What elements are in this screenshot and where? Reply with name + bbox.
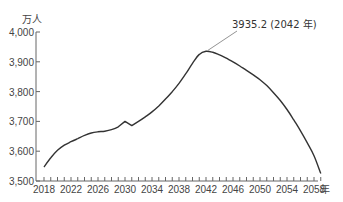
annotation-leader-line <box>208 31 237 50</box>
y-tick-label: 3,500 <box>9 176 34 187</box>
x-tick-label: 2046 <box>222 184 245 195</box>
y-tick-label: 3,800 <box>9 87 34 98</box>
y-tick-label: 3,600 <box>9 146 34 157</box>
x-tick-label: 2042 <box>195 184 218 195</box>
x-ticks: 2018202220262030203420382042204620502054… <box>33 177 326 195</box>
y-ticks: 3,5003,6003,7003,8003,9004,000 <box>9 27 40 187</box>
x-tick-label: 2050 <box>249 184 272 195</box>
x-tick-label: 2030 <box>114 184 137 195</box>
y-tick-label: 3,900 <box>9 57 34 68</box>
x-tick-label: 2018 <box>33 184 56 195</box>
x-tick-label: 2026 <box>87 184 110 195</box>
x-tick-label: 2034 <box>141 184 164 195</box>
population-line-chart: 万人 3,5003,6003,7003,8003,9004,000 201820… <box>0 0 343 202</box>
x-tick-label: 2038 <box>168 184 191 195</box>
x-tick-label: 2054 <box>276 184 299 195</box>
population-line <box>44 51 321 173</box>
y-tick-label: 4,000 <box>9 27 34 38</box>
x-tick-label: 2022 <box>60 184 83 195</box>
x-axis-unit-label: 年 <box>320 183 330 195</box>
peak-annotation: 3935.2 (2042 年) <box>232 18 317 30</box>
y-tick-label: 3,700 <box>9 116 34 127</box>
y-axis-unit-label: 万人 <box>22 14 42 25</box>
